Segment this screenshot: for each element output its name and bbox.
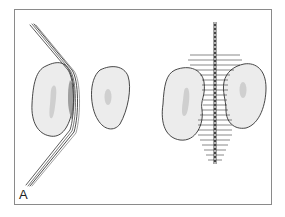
right-cell-right xyxy=(223,64,266,129)
left-cell xyxy=(32,63,75,137)
panel-label: A xyxy=(19,188,28,201)
middle-cell xyxy=(92,67,130,129)
illustration xyxy=(0,0,285,217)
right-cell-left xyxy=(162,68,204,141)
